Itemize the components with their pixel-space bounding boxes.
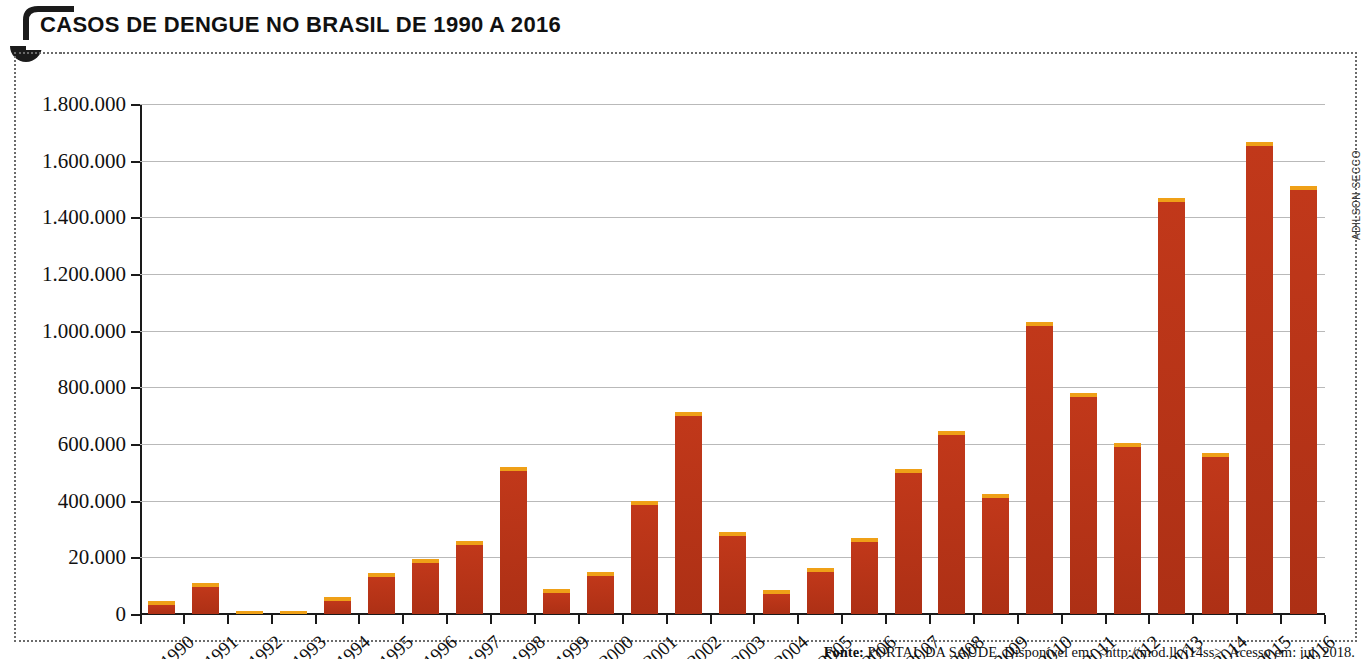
gridline bbox=[140, 217, 1325, 218]
bar-1995 bbox=[368, 573, 395, 614]
x-tick-mark bbox=[402, 615, 404, 624]
y-tick-mark bbox=[131, 217, 140, 219]
bar-1993 bbox=[280, 611, 307, 614]
y-tick-label: 1.000.000 bbox=[42, 318, 126, 343]
bar-2013 bbox=[1158, 198, 1185, 614]
bar-1998 bbox=[500, 467, 527, 614]
gridline bbox=[140, 387, 1325, 388]
x-tick-mark bbox=[841, 615, 843, 624]
x-tick-mark bbox=[490, 615, 492, 624]
x-tick-mark bbox=[183, 615, 185, 624]
x-tick-mark bbox=[1236, 615, 1238, 624]
x-tick-mark bbox=[315, 615, 317, 624]
bar-2005 bbox=[807, 568, 834, 614]
bar-1999 bbox=[543, 589, 570, 614]
title-bar: CASOS DE DENGUE NO BRASIL DE 1990 A 2016 bbox=[0, 0, 1371, 52]
x-tick-mark bbox=[358, 615, 360, 624]
bar-2014 bbox=[1202, 453, 1229, 615]
y-tick-mark bbox=[131, 274, 140, 276]
x-tick-mark bbox=[578, 615, 580, 624]
y-tick-label: 600.000 bbox=[58, 432, 126, 457]
bar-2004 bbox=[763, 590, 790, 614]
bar-chart: 020.000400.000600.000800.0001.000.0001.2… bbox=[14, 52, 1357, 642]
y-tick-label: 1.800.000 bbox=[42, 92, 126, 117]
gridline bbox=[140, 161, 1325, 162]
y-tick-mark bbox=[131, 614, 140, 616]
bar-2002 bbox=[675, 412, 702, 614]
bar-2008 bbox=[938, 431, 965, 614]
gridline bbox=[140, 444, 1325, 445]
source-label: Fonte: bbox=[824, 644, 864, 659]
x-tick-mark bbox=[753, 615, 755, 624]
y-tick-mark bbox=[131, 104, 140, 106]
x-tick-mark bbox=[973, 615, 975, 624]
bar-2010 bbox=[1026, 322, 1053, 614]
page-title: CASOS DE DENGUE NO BRASIL DE 1990 A 2016 bbox=[40, 12, 561, 38]
x-tick-mark bbox=[1148, 615, 1150, 624]
gridline bbox=[140, 331, 1325, 332]
y-tick-mark bbox=[131, 331, 140, 333]
y-tick-label: 1.400.000 bbox=[42, 205, 126, 230]
source-text: PORTAL DA SAÚDE. Disponível em: <http://… bbox=[864, 644, 1355, 659]
bar-1996 bbox=[412, 559, 439, 614]
gridline bbox=[140, 501, 1325, 502]
y-tick-label: 1.600.000 bbox=[42, 148, 126, 173]
bar-2001 bbox=[631, 501, 658, 614]
bar-2007 bbox=[895, 469, 922, 614]
x-tick-mark bbox=[797, 615, 799, 624]
x-tick-mark bbox=[1105, 615, 1107, 624]
source-note: Fonte: PORTAL DA SAÚDE. Disponível em: <… bbox=[0, 644, 1371, 659]
bar-1991 bbox=[192, 583, 219, 614]
y-tick-mark bbox=[131, 387, 140, 389]
x-tick-mark bbox=[622, 615, 624, 624]
bar-2003 bbox=[719, 532, 746, 614]
x-tick-mark bbox=[227, 615, 229, 624]
x-tick-mark bbox=[446, 615, 448, 624]
y-tick-mark bbox=[131, 501, 140, 503]
bar-2006 bbox=[851, 538, 878, 615]
y-tick-label: 1.200.000 bbox=[42, 262, 126, 287]
x-tick-mark bbox=[885, 615, 887, 624]
bar-1994 bbox=[324, 597, 351, 614]
x-tick-mark bbox=[710, 615, 712, 624]
y-tick-label: 400.000 bbox=[58, 488, 126, 513]
y-tick-label: 20.000 bbox=[68, 545, 126, 570]
x-tick-mark bbox=[1017, 615, 1019, 624]
x-tick-mark bbox=[1061, 615, 1063, 624]
y-tick-mark bbox=[131, 557, 140, 559]
y-tick-mark bbox=[131, 161, 140, 163]
bar-2016 bbox=[1290, 186, 1317, 614]
bar-1992 bbox=[236, 611, 263, 614]
bar-2011 bbox=[1070, 393, 1097, 614]
bar-2000 bbox=[587, 572, 614, 615]
x-tick-mark bbox=[929, 615, 931, 624]
bar-2009 bbox=[982, 494, 1009, 614]
bar-2015 bbox=[1246, 142, 1273, 614]
x-tick-mark bbox=[534, 615, 536, 624]
plot-area: 020.000400.000600.000800.0001.000.0001.2… bbox=[140, 104, 1325, 614]
x-tick-mark bbox=[1192, 615, 1194, 624]
bar-1997 bbox=[456, 541, 483, 614]
y-tick-label: 800.000 bbox=[58, 375, 126, 400]
gridline bbox=[140, 104, 1325, 105]
x-tick-mark bbox=[1324, 615, 1326, 624]
x-tick-mark-origin bbox=[140, 615, 142, 624]
gridline bbox=[140, 274, 1325, 275]
x-tick-mark bbox=[666, 615, 668, 624]
x-tick-mark bbox=[271, 615, 273, 624]
x-tick-mark bbox=[1280, 615, 1282, 624]
bar-2012 bbox=[1114, 443, 1141, 614]
y-tick-label: 0 bbox=[116, 602, 127, 627]
bar-1990 bbox=[148, 601, 175, 614]
y-tick-mark bbox=[131, 444, 140, 446]
